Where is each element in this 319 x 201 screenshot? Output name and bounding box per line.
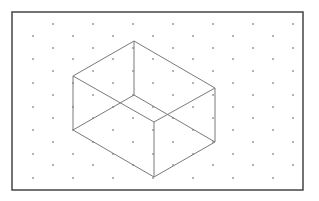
grid-dot	[52, 141, 54, 143]
grid-dot	[212, 23, 214, 25]
grid-dot	[52, 47, 54, 49]
grid-dot	[32, 177, 34, 179]
grid-dot	[92, 23, 94, 25]
grid-dot	[192, 177, 194, 179]
grid-dot	[292, 23, 294, 25]
grid-dot	[92, 70, 94, 72]
grid-dot	[232, 177, 234, 179]
grid-dot	[292, 47, 294, 49]
grid-dot	[52, 117, 54, 119]
frame-border	[12, 12, 303, 190]
grid-dot	[232, 58, 234, 60]
grid-dot	[112, 82, 114, 84]
grid-dot	[32, 82, 34, 84]
grid-dot	[272, 177, 274, 179]
grid-dot	[232, 82, 234, 84]
grid-dot	[212, 164, 214, 166]
grid-dot	[172, 141, 174, 143]
grid-dot	[152, 58, 154, 60]
grid-dot	[72, 35, 74, 37]
grid-dot	[112, 129, 114, 131]
grid-dot	[272, 58, 274, 60]
grid-dot	[32, 58, 34, 60]
grid-dot	[92, 164, 94, 166]
grid-dot	[292, 70, 294, 72]
grid-dot	[52, 94, 54, 96]
grid-dot	[292, 141, 294, 143]
grid-dot	[32, 129, 34, 131]
grid-dot	[132, 23, 134, 25]
grid-dot	[52, 70, 54, 72]
grid-dot	[52, 164, 54, 166]
grid-dot	[232, 106, 234, 108]
grid-dot	[212, 70, 214, 72]
grid-dot	[192, 82, 194, 84]
grid-dot	[252, 141, 254, 143]
grid-dot	[232, 35, 234, 37]
grid-dot	[32, 153, 34, 155]
grid-dot	[32, 106, 34, 108]
grid-dot	[172, 23, 174, 25]
grid-dot	[72, 153, 74, 155]
grid-dot	[172, 70, 174, 72]
grid-dot	[252, 70, 254, 72]
grid-dot	[52, 23, 54, 25]
grid-dot	[252, 94, 254, 96]
grid-dot	[272, 35, 274, 37]
grid-dot	[252, 164, 254, 166]
grid-dot	[272, 129, 274, 131]
grid-dot	[292, 94, 294, 96]
grid-dot	[272, 106, 274, 108]
grid-dot	[152, 35, 154, 37]
grid-dot	[292, 164, 294, 166]
grid-dot	[132, 117, 134, 119]
grid-dot	[152, 82, 154, 84]
grid-dot	[152, 177, 154, 179]
grid-dot	[92, 47, 94, 49]
grid-dot	[112, 177, 114, 179]
grid-dot	[172, 47, 174, 49]
grid-dot	[212, 117, 214, 119]
grid-dot	[212, 94, 214, 96]
grid-dot	[192, 58, 194, 60]
grid-dot	[112, 58, 114, 60]
grid-dot	[232, 153, 234, 155]
grid-dot	[192, 106, 194, 108]
grid-dot	[172, 94, 174, 96]
grid-dot	[32, 35, 34, 37]
grid-dot	[272, 82, 274, 84]
isometric-box-diagram	[0, 0, 319, 201]
grid-dot	[92, 94, 94, 96]
grid-dot	[72, 58, 74, 60]
grid-dot	[212, 47, 214, 49]
grid-dot	[132, 141, 134, 143]
grid-dot	[72, 177, 74, 179]
grid-dot	[192, 35, 194, 37]
grid-dot	[272, 153, 274, 155]
grid-dot	[252, 23, 254, 25]
grid-dot	[112, 35, 114, 37]
grid-dot	[232, 129, 234, 131]
grid-dot	[292, 117, 294, 119]
grid-dot	[252, 47, 254, 49]
grid-dot	[252, 117, 254, 119]
